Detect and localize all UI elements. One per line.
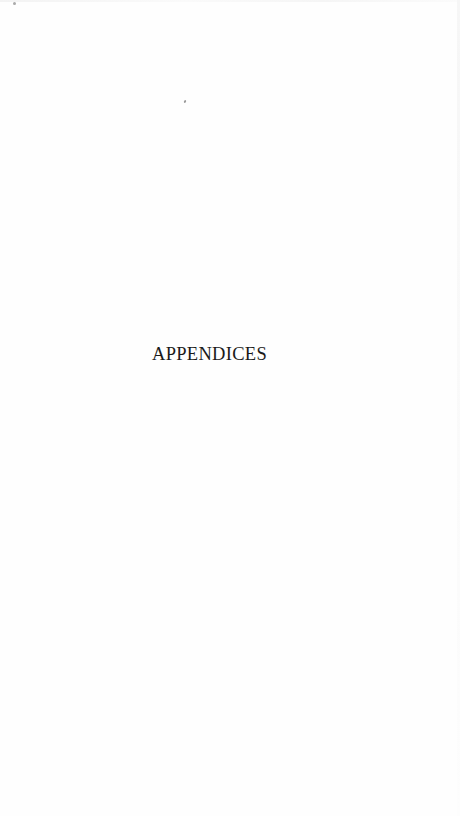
scan-speck — [183, 100, 186, 104]
page-top-edge — [0, 0, 460, 2]
section-heading: APPENDICES — [152, 344, 267, 365]
scan-speck — [13, 2, 16, 5]
book-page: APPENDICES — [0, 0, 460, 816]
